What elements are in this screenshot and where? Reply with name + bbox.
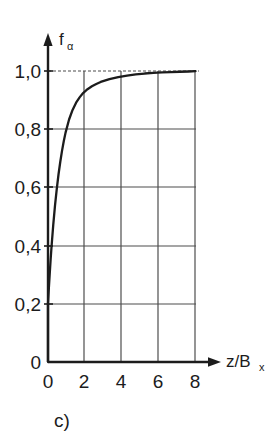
- ytick-label-0.8: 0,8: [15, 119, 41, 140]
- figure-caption: c): [54, 410, 70, 431]
- xtick-label-2: 2: [79, 371, 90, 392]
- xtick-label-6: 6: [153, 371, 164, 392]
- ytick-label-1.0: 1,0: [15, 61, 41, 82]
- y-axis-title-subscript: α: [67, 40, 74, 52]
- ytick-label-0.2: 0,2: [15, 294, 41, 315]
- x-axis-title-base: z/B: [226, 352, 251, 371]
- ytick-label-0.4: 0,4: [15, 236, 42, 257]
- ytick-label-0: 0: [30, 352, 41, 373]
- figure-panel: 1,0 0,8 0,6 0,4 0,2 0 0 2 4 6 8 f α z/B …: [0, 0, 271, 445]
- chart-canvas: 1,0 0,8 0,6 0,4 0,2 0 0 2 4 6 8 f α z/B …: [0, 0, 271, 445]
- x-axis-title-subscript: x: [259, 361, 265, 373]
- ytick-label-0.6: 0,6: [15, 177, 41, 198]
- xtick-label-0: 0: [43, 371, 54, 392]
- xtick-label-4: 4: [116, 371, 127, 392]
- xtick-label-8: 8: [190, 371, 201, 392]
- y-axis-title-base: f: [59, 30, 64, 49]
